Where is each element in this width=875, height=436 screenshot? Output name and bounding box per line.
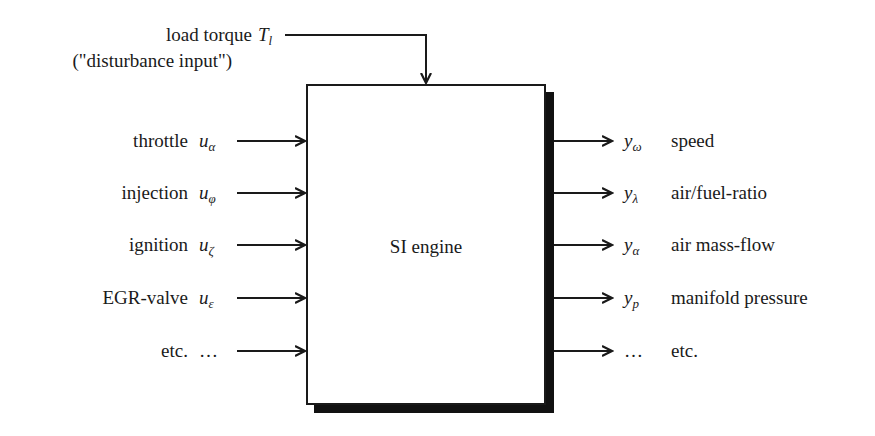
disturbance-label: load torque bbox=[60, 24, 252, 46]
input-label: injection bbox=[40, 182, 188, 204]
output-symbol: yp bbox=[624, 287, 639, 315]
input-symbol: uφ bbox=[199, 182, 216, 210]
output-label: manifold pressure bbox=[671, 287, 808, 309]
input-label: throttle bbox=[40, 130, 188, 152]
block-label: SI engine bbox=[308, 236, 544, 258]
input-label: EGR-valve bbox=[40, 287, 188, 309]
input-symbol: uα bbox=[199, 130, 215, 158]
output-symbol: yω bbox=[624, 130, 642, 158]
si-engine-block: SI engine bbox=[306, 84, 546, 405]
disturbance-sublabel: ("disturbance input") bbox=[20, 50, 232, 72]
disturbance-arrow bbox=[285, 35, 426, 83]
disturbance-symbol: Tl bbox=[258, 24, 272, 52]
input-symbol: uε bbox=[199, 287, 214, 315]
output-label: etc. bbox=[671, 340, 698, 362]
input-symbol: … bbox=[199, 340, 218, 368]
input-label: ignition bbox=[40, 234, 188, 256]
output-label: air mass-flow bbox=[671, 234, 775, 256]
output-label: air/fuel-ratio bbox=[671, 182, 767, 204]
output-symbol: yα bbox=[624, 234, 639, 262]
output-label: speed bbox=[671, 130, 714, 152]
output-symbol: yλ bbox=[624, 182, 638, 210]
output-symbol: … bbox=[624, 340, 643, 368]
input-label: etc. bbox=[40, 340, 188, 362]
input-symbol: uζ bbox=[199, 234, 214, 262]
